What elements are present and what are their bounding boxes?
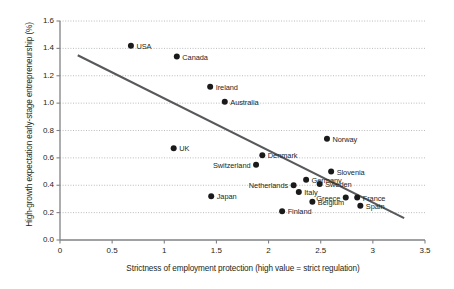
gridlines xyxy=(60,21,425,213)
data-point-label: Australia xyxy=(230,97,258,106)
x-tick-label: 1 xyxy=(151,246,177,255)
data-point-marker xyxy=(296,189,302,195)
x-tick-label: 1.5 xyxy=(203,246,229,255)
data-point-label: Finland xyxy=(288,207,312,216)
data-point-marker xyxy=(291,182,297,188)
data-point-label: Norway xyxy=(332,134,357,143)
data-point-marker xyxy=(253,162,259,168)
data-point-marker xyxy=(207,84,213,90)
data-points xyxy=(128,43,363,215)
data-point-marker xyxy=(222,99,228,105)
data-point-marker xyxy=(259,152,265,158)
data-point-marker xyxy=(309,199,315,205)
data-point-label: Japan xyxy=(217,192,237,201)
data-point-label: Belgium xyxy=(318,197,344,206)
data-point-marker xyxy=(303,177,309,183)
data-point-marker xyxy=(328,169,334,175)
data-point-label: Canada xyxy=(182,52,208,61)
scatter-chart: 0.00.20.40.60.81.01.21.41.6 00.511.522.5… xyxy=(0,0,454,289)
data-point-label: Denmark xyxy=(268,151,298,160)
data-point-label: USA xyxy=(136,41,151,50)
data-point-marker xyxy=(171,145,177,151)
data-point-marker xyxy=(128,43,134,49)
data-point-label: Ireland xyxy=(216,82,238,91)
x-tick-label: 2.5 xyxy=(308,246,334,255)
data-point-marker xyxy=(357,203,363,209)
x-tick-label: 3.5 xyxy=(412,246,438,255)
y-axis-title: High-growth expectation early-stage entr… xyxy=(25,0,34,250)
x-tick-label: 3 xyxy=(360,246,386,255)
x-tick-label: 0.5 xyxy=(99,246,125,255)
x-axis-title: Strictness of employment protection (hig… xyxy=(60,264,426,273)
x-tick-label: 0 xyxy=(47,246,73,255)
data-point-label: Netherlands xyxy=(249,181,288,190)
data-point-marker xyxy=(324,136,330,142)
data-point-label: Switzerland xyxy=(213,160,251,169)
data-point-marker xyxy=(354,195,360,201)
x-tick-label: 2 xyxy=(256,246,282,255)
data-point-marker xyxy=(208,193,214,199)
data-point-label: UK xyxy=(179,144,189,153)
data-point-label: Spain xyxy=(366,201,385,210)
data-point-marker xyxy=(279,208,285,214)
data-point-marker xyxy=(174,54,180,60)
data-point-label: Sweden xyxy=(325,179,351,188)
